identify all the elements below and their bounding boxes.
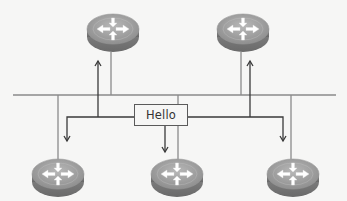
network-diagram xyxy=(0,0,347,201)
flow-arrow-to-bottom-left xyxy=(67,117,134,141)
router-icon xyxy=(32,159,84,197)
hello-packet-text: Hello xyxy=(146,108,176,122)
hello-packet-label: Hello xyxy=(134,104,188,126)
router-icon xyxy=(267,159,319,197)
router-bottom-right[interactable] xyxy=(267,159,319,197)
router-icon xyxy=(151,159,203,197)
router-icon xyxy=(217,14,269,52)
flow-arrow-to-bottom-right xyxy=(188,117,283,141)
router-bottom-left[interactable] xyxy=(32,159,84,197)
router-bottom-center[interactable] xyxy=(151,159,203,197)
router-top-right[interactable] xyxy=(217,14,269,52)
router-icon xyxy=(87,14,139,52)
router-top-left[interactable] xyxy=(87,14,139,52)
